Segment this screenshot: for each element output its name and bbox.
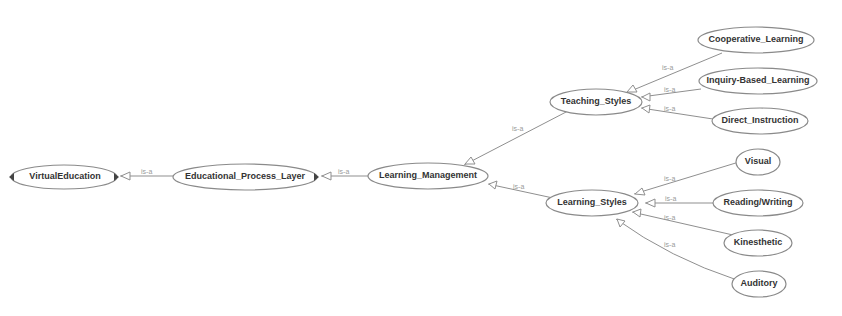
edge-label: is-a: [338, 168, 349, 175]
node-auditory[interactable]: Auditory: [732, 271, 786, 297]
arrow-head-icon: [642, 93, 650, 101]
edge-teaching-styles-to-learning-management: is-a: [464, 111, 568, 165]
edge-label: is-a: [664, 105, 675, 112]
node-label: Reading/Writing: [724, 197, 793, 207]
node-learning-styles[interactable]: Learning_Styles: [546, 190, 638, 216]
node-label: Inquiry-Based_Learning: [706, 75, 809, 85]
node-direct-instruction[interactable]: Direct_Instruction: [712, 108, 808, 134]
arrow-head-icon: [627, 85, 637, 92]
node-teaching-styles[interactable]: Teaching_Styles: [550, 89, 642, 115]
edge-label: is-a: [662, 64, 673, 71]
node-label: Direct_Instruction: [721, 115, 798, 125]
edge-label: is-a: [664, 214, 675, 221]
node-label: Learning_Management: [379, 170, 477, 180]
node-label: Visual: [745, 156, 771, 166]
expand-right-icon[interactable]: [314, 173, 319, 181]
edge-educational-process-layer-to-virtual-education: is-a: [120, 168, 173, 180]
ontology-graph: is-a is-a is-a is-a is-a is-a is-a is-a: [0, 0, 842, 316]
node-learning-management[interactable]: Learning_Management: [368, 163, 488, 189]
arrow-head-icon: [646, 199, 655, 207]
arrow-head-icon: [635, 188, 645, 195]
edge-label: is-a: [513, 183, 524, 190]
edge-label: is-a: [664, 86, 675, 93]
node-cooperative-learning[interactable]: Cooperative_Learning: [698, 27, 814, 53]
edge-label: is-a: [141, 168, 152, 175]
arrow-head-icon: [322, 172, 331, 180]
node-label: Auditory: [741, 278, 778, 288]
edge-kinesthetic-to-learning-styles: is-a: [632, 209, 733, 235]
node-reading-writing[interactable]: Reading/Writing: [713, 190, 803, 216]
arrow-head-icon: [465, 157, 475, 164]
edge-reading-writing-to-learning-styles: is-a: [645, 195, 713, 207]
edge-direct-instruction-to-teaching-styles: is-a: [641, 105, 713, 119]
edge-inquiry-based-learning-to-teaching-styles: is-a: [641, 86, 701, 101]
arrow-head-icon: [642, 105, 650, 113]
arrow-head-icon: [633, 209, 641, 217]
edge-visual-to-learning-styles: is-a: [634, 162, 739, 195]
node-label: Cooperative_Learning: [708, 34, 803, 44]
node-inquiry-based-learning[interactable]: Inquiry-Based_Learning: [699, 68, 817, 94]
edge-learning-styles-to-learning-management: is-a: [488, 181, 553, 198]
collapse-left-icon[interactable]: [9, 173, 14, 181]
node-virtual-education[interactable]: VirtualEducation: [9, 165, 119, 189]
node-educational-process-layer[interactable]: Educational_Process_Layer: [173, 164, 319, 190]
edge-label: is-a: [664, 241, 675, 248]
edge-label: is-a: [512, 125, 523, 132]
edge-label: is-a: [665, 195, 676, 202]
node-label: Teaching_Styles: [561, 96, 631, 106]
node-visual[interactable]: Visual: [736, 149, 780, 175]
edge-auditory-to-learning-styles: is-a: [616, 219, 737, 280]
arrow-head-icon: [617, 219, 625, 227]
expand-right-icon[interactable]: [114, 173, 119, 181]
node-label: Learning_Styles: [557, 197, 627, 207]
node-label: Kinesthetic: [734, 237, 783, 247]
edge-label: is-a: [664, 175, 675, 182]
edge-learning-management-to-educational-process-layer: is-a: [321, 168, 370, 180]
node-kinesthetic[interactable]: Kinesthetic: [724, 230, 792, 256]
arrow-head-icon: [489, 181, 497, 189]
node-label: Educational_Process_Layer: [185, 171, 306, 181]
node-label: VirtualEducation: [29, 171, 100, 181]
arrow-head-icon: [121, 172, 130, 180]
